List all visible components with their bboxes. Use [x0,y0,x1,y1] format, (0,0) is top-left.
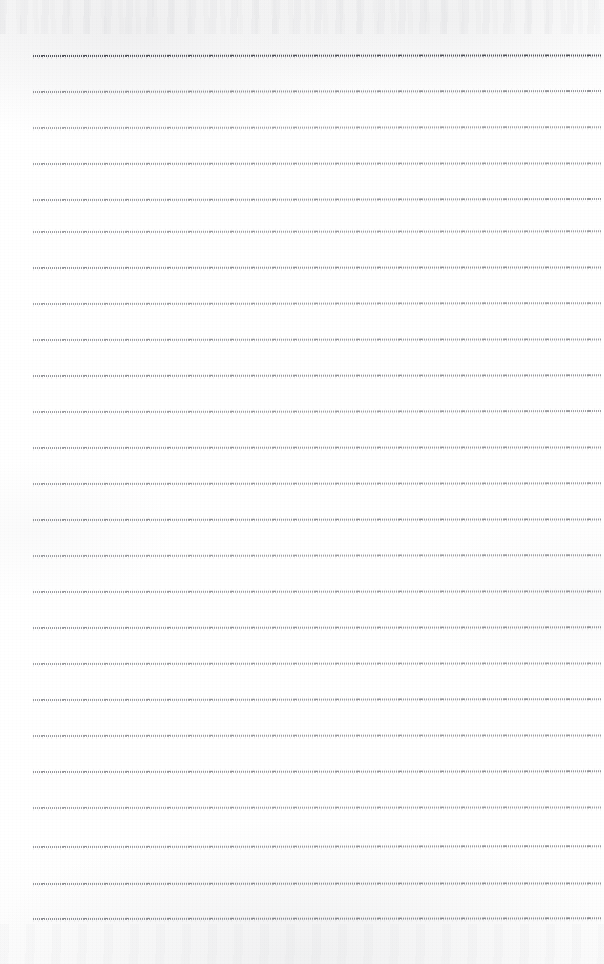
ruled-lines-layer [0,0,604,964]
ruled-line [33,698,601,701]
ruled-line [33,883,601,885]
ruled-line [33,735,601,737]
ruled-line [33,806,601,809]
ruled-line [33,90,601,93]
ruled-line [33,662,601,665]
ruled-line [33,845,601,848]
ruled-line [33,917,601,920]
ruled-line [33,518,601,521]
ruled-line [33,198,601,201]
ruled-line [33,267,601,269]
ruled-line [33,302,601,305]
ruled-line [33,55,601,57]
ruled-line [33,770,601,773]
ruled-line [33,338,601,341]
ruled-line [33,447,601,449]
ruled-line [33,374,601,377]
ruled-line [33,162,601,165]
ruled-line [33,591,601,593]
ruled-line [33,230,601,233]
scanned-page [0,0,604,964]
ruled-line [33,554,601,557]
ruled-line [33,126,601,129]
ruled-line [33,482,601,485]
ruled-line [33,410,601,413]
ruled-line [33,626,601,629]
